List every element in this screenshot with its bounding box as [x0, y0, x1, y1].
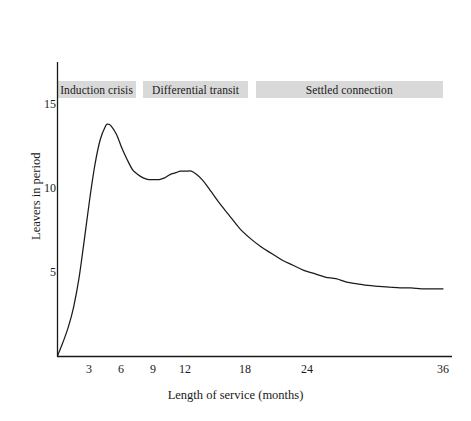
- leavers-curve: [58, 124, 444, 356]
- plot-area: [0, 0, 471, 421]
- chart-figure: Induction crisis Differential transit Se…: [0, 0, 471, 421]
